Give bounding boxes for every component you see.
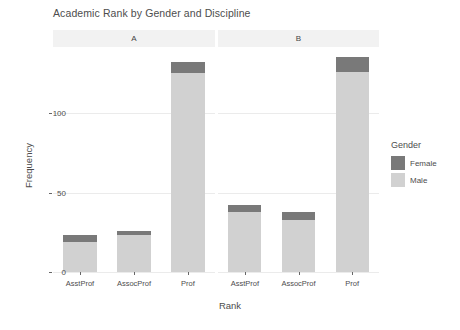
facet-strip-a: A — [53, 30, 215, 47]
facet-strip-b: B — [218, 30, 379, 47]
bar-segment-female — [117, 231, 150, 236]
y-tick-label: 0 — [26, 268, 66, 277]
page-title: Academic Rank by Gender and Discipline — [53, 7, 251, 19]
facet-panel-a — [53, 49, 215, 272]
x-tick-mark — [188, 272, 189, 275]
bar-segment-male — [117, 235, 150, 272]
x-tick-mark — [352, 272, 353, 275]
x-tick-label: AsstProf — [231, 279, 259, 288]
x-axis-title: Rank — [0, 300, 460, 311]
legend-swatch-female — [391, 156, 405, 170]
bar-segment-female — [282, 212, 315, 220]
y-tick-mark — [49, 113, 52, 114]
x-tick-label: AssocProf — [117, 279, 151, 288]
legend-label: Male — [410, 176, 427, 185]
x-tick-label: Prof — [345, 279, 359, 288]
bar-asstprof — [228, 205, 261, 272]
x-tick-mark — [245, 272, 246, 275]
bar-segment-male — [228, 212, 261, 272]
bar-asstprof — [63, 235, 96, 272]
bar-prof — [171, 62, 204, 272]
legend-swatch-male — [391, 173, 405, 187]
facet-panel-b — [218, 49, 379, 272]
bar-segment-male — [282, 220, 315, 272]
legend: Gender FemaleMale — [391, 140, 437, 190]
legend-label: Female — [410, 159, 437, 168]
bar-segment-female — [336, 57, 369, 71]
bar-segment-female — [228, 205, 261, 211]
x-tick-label: Prof — [181, 279, 195, 288]
bar-segment-female — [63, 235, 96, 241]
x-tick-mark — [80, 272, 81, 275]
legend-title: Gender — [391, 140, 437, 150]
legend-entries: FemaleMale — [391, 156, 437, 187]
x-tick-mark — [134, 272, 135, 275]
bar-segment-male — [171, 73, 204, 272]
x-tick-label: AssocProf — [281, 279, 315, 288]
bar-assocprof — [282, 212, 315, 272]
bar-segment-male — [336, 72, 369, 272]
chart-canvas: Academic Rank by Gender and Discipline A… — [0, 0, 460, 330]
bar-prof — [336, 57, 369, 272]
legend-entry[interactable]: Male — [391, 173, 437, 187]
legend-entry[interactable]: Female — [391, 156, 437, 170]
bar-segment-male — [63, 242, 96, 272]
y-axis-title: Frequency — [23, 116, 34, 216]
x-tick-mark — [299, 272, 300, 275]
y-tick-mark — [49, 193, 52, 194]
bar-assocprof — [117, 231, 150, 272]
bar-segment-female — [171, 62, 204, 73]
facet-strip-a-label: A — [131, 34, 136, 43]
x-tick-label: AsstProf — [66, 279, 94, 288]
y-tick-mark — [49, 272, 52, 273]
facet-strip-b-label: B — [296, 34, 301, 43]
